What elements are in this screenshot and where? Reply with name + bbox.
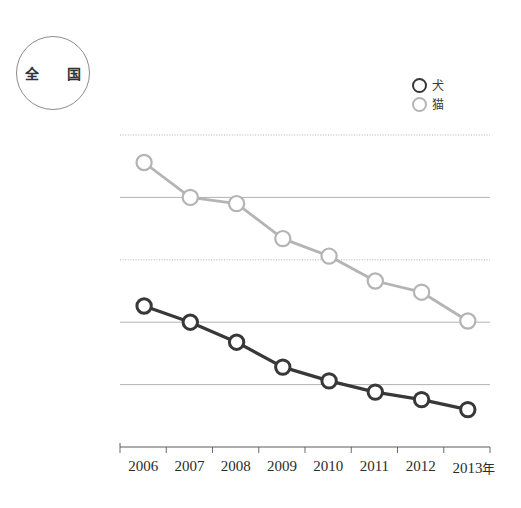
data-point-dog-2007: [183, 315, 197, 329]
data-point-dog-2006: [137, 299, 151, 313]
x-axis-label-2010: 2010: [313, 458, 343, 475]
data-point-cat-2007: [183, 190, 198, 205]
data-point-dog-2012: [414, 392, 428, 406]
x-axis-label-2013: 2013年: [452, 458, 495, 477]
data-point-dog-2011: [368, 385, 382, 399]
line-chart-plot: [0, 0, 521, 508]
data-point-cat-2010: [322, 249, 337, 264]
data-point-dog-2010: [322, 374, 336, 388]
data-point-cat-2011: [368, 273, 383, 288]
data-point-dog-2013: [461, 402, 475, 416]
data-point-cat-2009: [275, 231, 290, 246]
data-point-dog-2009: [276, 360, 290, 374]
data-point-dog-2008: [229, 335, 243, 349]
gridlines: [120, 135, 490, 447]
data-point-cat-2008: [229, 196, 244, 211]
series-layer: [137, 155, 476, 417]
x-axis-label-2011: 2011: [360, 458, 389, 475]
chart-page: 全 国 犬 猫 250,000頭200,000150,000100,00050,…: [0, 0, 521, 508]
data-point-cat-2012: [414, 285, 429, 300]
data-point-cat-2006: [137, 155, 152, 170]
x-axis-label-2009: 2009: [267, 458, 297, 475]
x-axis-label-2012: 2012: [406, 458, 436, 475]
data-point-cat-2013: [460, 313, 475, 328]
x-axis-unit: 年: [482, 461, 495, 476]
x-axis-label-2007: 2007: [174, 458, 204, 475]
x-axis-label-2006: 2006: [128, 458, 158, 475]
x-axis-label-2008: 2008: [221, 458, 251, 475]
x-axis-ticks: [120, 447, 490, 453]
